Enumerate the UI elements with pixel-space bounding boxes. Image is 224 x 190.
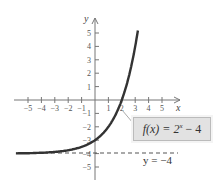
svg-text:−5: −5 (24, 104, 33, 113)
asymptote-label: y = −4 (143, 154, 172, 166)
svg-text:−3: −3 (51, 104, 60, 113)
function-curve (16, 31, 138, 154)
function-label-box: f(x) = 2x − 4 (133, 117, 211, 141)
y-axis-label: y (83, 13, 89, 24)
svg-text:3: 3 (87, 56, 91, 65)
svg-text:3: 3 (133, 104, 137, 113)
svg-text:2: 2 (87, 69, 91, 78)
svg-text:−2: −2 (82, 123, 91, 132)
chart-canvas: −5−4−3−2−11234554321−1−2−3−4−5 x y (0, 0, 224, 190)
svg-text:−2: −2 (64, 104, 73, 113)
function-label-suffix: − 4 (183, 122, 202, 136)
label-leader-line (122, 110, 133, 123)
svg-text:4: 4 (147, 104, 151, 113)
svg-text:−1: −1 (82, 109, 91, 118)
svg-text:−4: −4 (82, 150, 91, 159)
svg-text:5: 5 (160, 104, 164, 113)
x-axis-label: x (175, 102, 181, 113)
svg-text:5: 5 (87, 29, 91, 38)
function-label-prefix: f(x) = 2 (143, 122, 180, 136)
svg-text:−4: −4 (37, 104, 46, 113)
svg-text:1: 1 (87, 83, 91, 92)
svg-text:1: 1 (106, 104, 110, 113)
svg-text:−5: −5 (82, 163, 91, 172)
svg-text:4: 4 (87, 42, 91, 51)
